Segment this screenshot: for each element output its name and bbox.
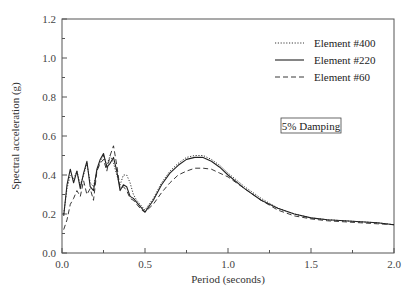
legend-item-label: Element #220: [314, 54, 376, 66]
y-tick-label: 0.2: [42, 208, 56, 220]
legend-item-label: Element #60: [314, 71, 370, 83]
x-tick-label: 1.0: [221, 258, 235, 270]
y-tick-label: 0.4: [42, 169, 56, 181]
x-tick-label: 0.0: [55, 258, 69, 270]
x-tick-label: 2.0: [387, 258, 401, 270]
x-tick-label: 1.5: [304, 258, 318, 270]
y-tick-label: 0.8: [42, 91, 56, 103]
damping-annotation: 5% Damping: [281, 118, 341, 133]
legend-item-label: Element #400: [314, 37, 376, 49]
damping-label: 5% Damping: [282, 120, 341, 132]
spectral-chart: 0.00.20.40.60.81.01.2 0.00.51.01.52.0 Pe…: [0, 0, 414, 299]
y-tick-label: 1.2: [42, 13, 56, 25]
x-axis-title: Period (seconds): [191, 273, 265, 286]
x-tick-label: 0.5: [138, 258, 152, 270]
y-tick-label: 0.6: [42, 130, 56, 142]
y-axis-title: Spectral acceleration (g): [9, 82, 22, 190]
y-tick-label: 1.0: [42, 52, 56, 64]
